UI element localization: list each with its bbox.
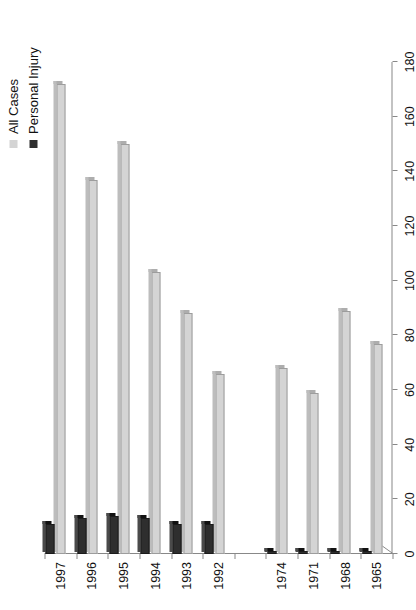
category-axis-label: 1993 — [179, 562, 193, 606]
legend-item-all-cases: All Cases — [6, 47, 19, 148]
bar — [309, 393, 318, 554]
bar — [172, 524, 181, 554]
bar-front-face — [330, 551, 339, 554]
bar-front-face — [45, 524, 54, 554]
value-axis-line — [391, 62, 392, 554]
bar-front-face — [373, 344, 382, 554]
category-axis-tick — [202, 554, 203, 559]
bar-front-face — [151, 272, 160, 554]
value-axis-tick-label: 40 — [402, 438, 416, 452]
bar-front-face — [140, 518, 149, 554]
category-axis-label: 1971 — [306, 562, 320, 606]
bar-front-face — [267, 551, 276, 554]
bar — [56, 84, 65, 554]
bar — [151, 272, 160, 554]
value-axis-tick — [392, 61, 397, 62]
value-axis-tick — [392, 444, 397, 445]
bar-front-face — [77, 518, 86, 554]
value-axis-tick — [392, 170, 397, 171]
bar-front-face — [341, 311, 350, 554]
category-axis-tick — [297, 554, 298, 559]
bar — [278, 368, 287, 554]
value-axis-tick-label: 140 — [402, 161, 416, 182]
value-axis-tick-label: 120 — [402, 216, 416, 237]
category-axis-label: 1996 — [84, 562, 98, 606]
bar — [267, 551, 276, 554]
legend-item-personal-injury: Personal Injury — [26, 47, 39, 148]
bar — [183, 313, 192, 554]
bar-front-face — [183, 313, 192, 554]
bar — [140, 518, 149, 554]
category-axis-tick — [329, 554, 330, 559]
legend-square-icon — [29, 140, 37, 148]
bar-front-face — [278, 368, 287, 554]
value-axis-tick-label: 80 — [402, 328, 416, 342]
value-axis-tick — [392, 498, 397, 499]
value-axis-tick-label: 20 — [402, 492, 416, 506]
bar — [109, 516, 118, 554]
category-axis-label: 1997 — [53, 562, 67, 606]
category-axis-tick — [360, 554, 361, 559]
bar — [77, 518, 86, 554]
category-axis-label: 1965 — [369, 562, 383, 606]
bar-front-face — [204, 524, 213, 554]
bar — [330, 551, 339, 554]
bar-front-face — [120, 144, 129, 554]
value-axis-tick-label: 0 — [402, 551, 416, 558]
category-axis-tick — [265, 554, 266, 559]
category-axis-tick — [234, 554, 235, 559]
bar-front-face — [88, 180, 97, 554]
bar — [373, 344, 382, 554]
value-axis-tick — [392, 389, 397, 390]
bar — [215, 374, 224, 554]
bar-front-face — [362, 551, 371, 554]
bar — [120, 144, 129, 554]
bar — [341, 311, 350, 554]
value-axis-tick — [392, 225, 397, 226]
category-axis-label: 1968 — [338, 562, 352, 606]
value-axis-tick-label: 180 — [402, 52, 416, 73]
category-axis-label: 1974 — [274, 562, 288, 606]
plot-area: 020406080100120140160180 196519681971197… — [44, 62, 392, 554]
category-axis-tick — [107, 554, 108, 559]
bar — [362, 551, 371, 554]
legend-label-all-cases: All Cases — [6, 79, 19, 134]
value-axis-tick — [392, 280, 397, 281]
category-axis-tick — [139, 554, 140, 559]
bar — [45, 524, 54, 554]
bar — [298, 551, 307, 554]
bar — [88, 180, 97, 554]
category-axis-tick — [392, 554, 393, 559]
bar-front-face — [215, 374, 224, 554]
bar-front-face — [56, 84, 65, 554]
chart-legend: All Cases Personal Injury — [6, 47, 39, 148]
value-axis-tick-label: 60 — [402, 383, 416, 397]
category-axis-label: 1994 — [148, 562, 162, 606]
category-axis-label: 1992 — [211, 562, 225, 606]
legend-label-personal-injury: Personal Injury — [26, 47, 39, 134]
bar-front-face — [172, 524, 181, 554]
category-axis-tick — [44, 554, 45, 559]
category-axis-tick — [171, 554, 172, 559]
category-axis-tick — [76, 554, 77, 559]
value-axis-tick-label: 100 — [402, 270, 416, 291]
bar-front-face — [109, 516, 118, 554]
bar — [204, 524, 213, 554]
value-axis-tick — [392, 116, 397, 117]
bar-front-face — [309, 393, 318, 554]
bar-front-face — [298, 551, 307, 554]
value-axis-tick-label: 160 — [402, 106, 416, 127]
legend-square-icon — [9, 140, 17, 148]
category-axis-label: 1995 — [116, 562, 130, 606]
value-axis-tick — [392, 334, 397, 335]
